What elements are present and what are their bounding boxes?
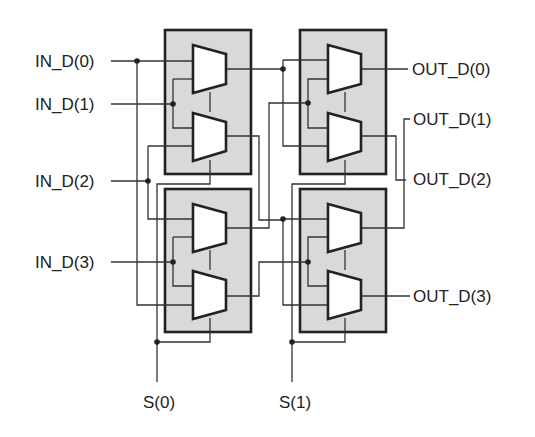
output-label-1: OUT_D(1) [413,110,491,129]
mux-s2-2 [328,204,361,252]
mux-s2-1 [328,113,361,161]
mux-s1-2 [193,204,226,252]
output-label-2: OUT_D(2) [413,170,491,189]
muxes [193,45,361,319]
mux-s2-3 [328,271,361,319]
input-label-0: IN_D(0) [35,52,95,71]
mux-s1-1 [193,113,226,161]
select-label-0: S(0) [143,393,175,412]
mux-network-diagram: IN_D(0) IN_D(1) IN_D(2) IN_D(3) OUT_D(0)… [0,0,535,437]
mux-s2-0 [328,45,361,93]
mux-s1-0 [193,45,226,93]
select-label-1: S(1) [279,393,311,412]
output-label-0: OUT_D(0) [412,60,490,79]
mux-s1-3 [193,271,226,319]
input-label-3: IN_D(3) [35,253,95,272]
input-label-1: IN_D(1) [35,95,95,114]
output-label-3: OUT_D(3) [413,287,491,306]
input-label-2: IN_D(2) [35,172,95,191]
